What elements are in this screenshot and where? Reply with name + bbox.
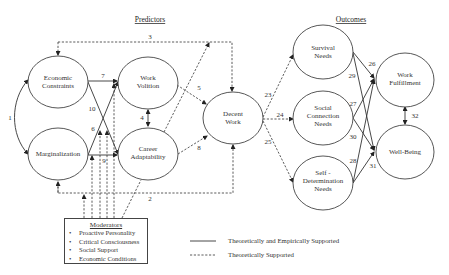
moderator-item: •Social Support <box>69 246 147 255</box>
node-economic-constraints: Economic Constraints <box>28 56 88 108</box>
svg-text:Adaptability: Adaptability <box>131 153 166 161</box>
path-23: 23 <box>263 55 293 117</box>
svg-text:3: 3 <box>148 33 152 41</box>
node-survival-needs: Survival Needs <box>293 25 353 79</box>
svg-text:Work: Work <box>225 118 241 126</box>
outcomes-header: Outcomes <box>336 15 366 24</box>
svg-text:Needs: Needs <box>314 52 332 60</box>
svg-text:Needs: Needs <box>314 120 332 128</box>
svg-text:9: 9 <box>102 157 106 165</box>
path-7: 7 <box>88 72 117 81</box>
path-1: 1 <box>8 80 28 154</box>
svg-text:Well-Being: Well-Being <box>389 148 422 156</box>
moderator-line-ca <box>122 180 141 218</box>
legend-solid-label: Theoretically and Empirically Supported <box>228 237 340 244</box>
node-work-fulfillment: Work Fulfillment <box>376 53 434 107</box>
svg-text:Needs: Needs <box>314 185 332 193</box>
moderator-item: •Economic Conditions <box>69 255 147 264</box>
svg-text:Fulfillment: Fulfillment <box>389 79 421 87</box>
svg-text:25: 25 <box>265 138 273 146</box>
svg-text:31: 31 <box>370 162 378 170</box>
node-marginalization: Marginalization <box>28 128 88 180</box>
path-25: 25 <box>263 121 293 182</box>
svg-text:32: 32 <box>412 112 420 120</box>
svg-text:29: 29 <box>349 72 357 80</box>
svg-text:1: 1 <box>8 114 12 122</box>
moderators-box: Moderators •Proactive Personality •Criti… <box>64 218 148 264</box>
node-work-volition: Work Volition <box>118 57 178 109</box>
svg-text:24: 24 <box>277 111 285 119</box>
path-24: 24 <box>263 111 293 119</box>
svg-text:Connection: Connection <box>307 112 340 120</box>
svg-text:Determination: Determination <box>303 177 344 185</box>
svg-text:Decent: Decent <box>223 110 243 118</box>
legend-dashed-label: Theoretically Supported <box>228 251 294 258</box>
svg-text:4: 4 <box>140 114 144 122</box>
path-32: 32 <box>405 107 419 124</box>
svg-text:8: 8 <box>197 144 201 152</box>
path-26: 26 <box>353 52 376 78</box>
legend: Theoretically and Empirically Supported … <box>190 237 340 258</box>
svg-text:26: 26 <box>369 60 377 68</box>
svg-text:Constraints: Constraints <box>42 82 74 90</box>
svg-text:2: 2 <box>148 195 152 203</box>
svg-text:Work: Work <box>397 71 413 79</box>
svg-text:Volition: Volition <box>137 82 160 90</box>
node-decent-work: Decent Work <box>203 92 263 144</box>
svg-text:7: 7 <box>101 72 105 80</box>
svg-text:30: 30 <box>350 133 358 141</box>
svg-text:Self -: Self - <box>315 169 331 177</box>
svg-text:6: 6 <box>91 125 95 133</box>
moderator-item: •Proactive Personality <box>69 229 147 238</box>
path-5: 5 <box>177 84 206 104</box>
svg-text:Economic: Economic <box>44 74 72 82</box>
moderator-item: •Critical Consciousness <box>69 238 147 247</box>
node-self-determination-needs: Self - Determination Needs <box>293 156 353 210</box>
svg-text:Social: Social <box>314 104 332 112</box>
moderators-title: Moderators <box>65 221 147 229</box>
node-social-connection-needs: Social Connection Needs <box>293 91 353 145</box>
svg-text:Work: Work <box>140 74 156 82</box>
svg-text:Survival: Survival <box>311 44 335 52</box>
svg-text:Career: Career <box>139 145 158 153</box>
moderators-list: •Proactive Personality •Critical Conscio… <box>65 229 147 263</box>
svg-text:23: 23 <box>265 91 273 99</box>
svg-text:Marginalization: Marginalization <box>36 150 81 158</box>
svg-text:10: 10 <box>89 105 97 113</box>
node-well-being: Well-Being <box>376 125 434 179</box>
svg-text:5: 5 <box>197 84 201 92</box>
node-career-adaptability: Career Adaptability <box>118 128 178 180</box>
svg-text:28: 28 <box>350 157 358 165</box>
predictors-header: Predictors <box>135 15 165 24</box>
path-8: 8 <box>178 136 207 154</box>
path-4: 4 <box>140 110 148 126</box>
